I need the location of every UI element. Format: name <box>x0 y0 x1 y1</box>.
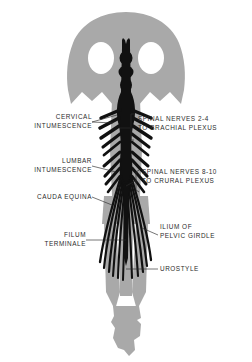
label-crural-plexus: SPINAL NERVES 8-10 TO CRURAL PLEXUS <box>142 168 217 185</box>
label-crural-plexus-line2: TO CRURAL PLEXUS <box>142 177 217 186</box>
label-crural-plexus-line1: SPINAL NERVES 8-10 <box>142 168 217 177</box>
label-cauda-equina-line1: CAUDA EQUINA <box>0 193 92 202</box>
label-lumbar-intumescence: LUMBAR INTUMESCENCE <box>0 157 92 174</box>
label-filum-terminale-line1: FILUM <box>0 231 86 240</box>
sacrum-shape <box>111 306 141 356</box>
label-ilium-line2: PELVIC GIRDLE <box>160 232 215 241</box>
orbit-right-shape <box>138 42 164 74</box>
label-cervical-intumescence: CERVICAL INTUMESCENCE <box>0 113 92 130</box>
label-filum-terminale: FILUM TERMINALE <box>0 231 86 248</box>
label-cauda-equina: CAUDA EQUINA <box>0 193 92 202</box>
label-lumbar-intumescence-line2: INTUMESCENCE <box>0 166 92 175</box>
label-brachial-plexus-line2: TO BRACHIAL PLEXUS <box>138 124 217 133</box>
label-lumbar-intumescence-line1: LUMBAR <box>0 157 92 166</box>
orbit-left-shape <box>88 42 114 74</box>
label-cervical-intumescence-line2: INTUMESCENCE <box>0 122 92 131</box>
label-cervical-intumescence-line1: CERVICAL <box>0 113 92 122</box>
brain-stem-shape <box>121 48 131 92</box>
label-brachial-plexus-line1: SPINAL NERVES 2-4 <box>138 115 217 124</box>
label-filum-terminale-line2: TERMINALE <box>0 240 86 249</box>
label-brachial-plexus: SPINAL NERVES 2-4 TO BRACHIAL PLEXUS <box>138 115 217 132</box>
label-urostyle: UROSTYLE <box>160 265 199 274</box>
label-ilium-line1: ILIUM OF <box>160 223 215 232</box>
label-ilium: ILIUM OF PELVIC GIRDLE <box>160 223 215 240</box>
label-urostyle-line1: UROSTYLE <box>160 265 199 274</box>
